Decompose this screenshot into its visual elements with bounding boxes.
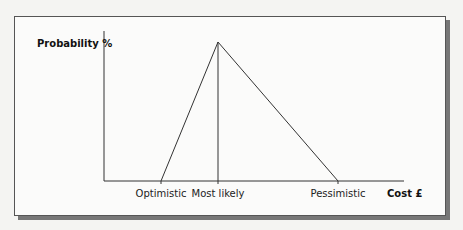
tick-label-optimistic: Optimistic xyxy=(136,188,187,199)
y-axis-label: Probability % xyxy=(37,38,112,49)
distribution-triangle xyxy=(161,42,338,181)
tick-label-most-likely: Most likely xyxy=(192,188,245,199)
tick-label-pessimistic: Pessimistic xyxy=(311,188,366,199)
triangular-distribution-chart: Probability % Optimistic Most likely Pes… xyxy=(0,0,463,230)
x-axis-label: Cost £ xyxy=(387,188,422,199)
